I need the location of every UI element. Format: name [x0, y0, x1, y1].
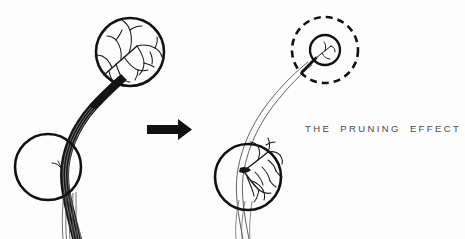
figure-caption: THE PRUNING EFFECT	[305, 123, 461, 134]
pruning-effect-diagram	[0, 0, 465, 239]
figure-canvas: THE PRUNING EFFECT	[0, 0, 465, 239]
